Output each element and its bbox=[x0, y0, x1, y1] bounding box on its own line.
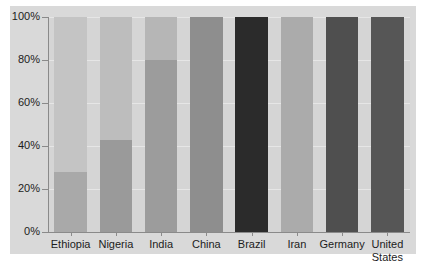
y-axis-tick-label: 20% bbox=[18, 183, 40, 194]
x-axis-tick-label: China bbox=[184, 238, 229, 251]
y-axis-tick-mark bbox=[42, 103, 48, 104]
bar-segment-lower bbox=[281, 17, 314, 232]
x-axis-tick-mark bbox=[206, 232, 207, 236]
y-axis-tick-label: 60% bbox=[18, 97, 40, 108]
bar-segment-lower bbox=[54, 172, 87, 232]
x-axis-tick-label: Brazil bbox=[229, 238, 274, 251]
bar[interactable] bbox=[54, 17, 87, 232]
y-axis-tick-label: 100% bbox=[12, 11, 40, 22]
x-axis-tick-mark bbox=[161, 232, 162, 236]
x-axis-line bbox=[48, 232, 410, 233]
bar-segment-lower bbox=[235, 17, 268, 232]
bar[interactable] bbox=[326, 17, 359, 232]
y-axis-tick-label: 0% bbox=[24, 226, 40, 237]
x-axis-tick-label: India bbox=[139, 238, 184, 251]
chart-figure: 0%20%40%60%80%100% EthiopiaNigeriaIndiaC… bbox=[0, 0, 430, 275]
x-axis-tick-label: United States bbox=[365, 238, 410, 263]
x-axis-tick-mark bbox=[71, 232, 72, 236]
x-axis-tick-mark bbox=[297, 232, 298, 236]
bar[interactable] bbox=[281, 17, 314, 232]
x-axis-tick-mark bbox=[342, 232, 343, 236]
bar[interactable] bbox=[371, 17, 404, 232]
y-axis-tick-mark bbox=[42, 232, 48, 233]
x-axis-tick-mark bbox=[387, 232, 388, 236]
bar-segment-lower bbox=[100, 140, 133, 232]
x-axis-tick-label: Nigeria bbox=[93, 238, 138, 251]
bar[interactable] bbox=[100, 17, 133, 232]
bar-segment-lower bbox=[190, 17, 223, 232]
y-axis-line bbox=[48, 17, 49, 232]
bar[interactable] bbox=[190, 17, 223, 232]
y-axis-tick-mark bbox=[42, 60, 48, 61]
bar[interactable] bbox=[145, 17, 178, 232]
y-axis-tick-label: 80% bbox=[18, 54, 40, 65]
bar-segment-lower bbox=[326, 17, 359, 232]
bar[interactable] bbox=[235, 17, 268, 232]
y-axis-tick-labels: 0%20%40%60%80%100% bbox=[0, 0, 40, 275]
x-axis-tick-mark bbox=[116, 232, 117, 236]
x-axis-tick-label: Germany bbox=[320, 238, 365, 251]
y-axis-tick-mark bbox=[42, 146, 48, 147]
bar-segment-upper bbox=[100, 17, 133, 140]
y-axis-tick-label: 40% bbox=[18, 140, 40, 151]
y-axis-tick-mark bbox=[42, 189, 48, 190]
y-axis-tick-mark bbox=[42, 17, 48, 18]
x-axis-tick-label: Ethiopia bbox=[48, 238, 93, 251]
bar-segment-lower bbox=[145, 60, 178, 232]
bar-segment-upper bbox=[54, 17, 87, 172]
x-axis-tick-mark bbox=[252, 232, 253, 236]
bar-segment-lower bbox=[371, 17, 404, 232]
bar-segment-upper bbox=[145, 17, 178, 60]
x-axis-tick-label: Iran bbox=[274, 238, 319, 251]
